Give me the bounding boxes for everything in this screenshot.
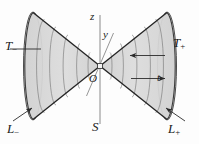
label-t-plus: T+ <box>173 36 185 51</box>
future-cone-body <box>100 13 175 120</box>
label-l-plus-subscript: + <box>175 127 180 137</box>
past-cone <box>24 12 101 120</box>
axis-label-y: y <box>103 29 108 40</box>
origin-marker <box>98 64 103 69</box>
axis-label-t: t <box>157 72 160 83</box>
label-t-minus: T− <box>5 39 17 54</box>
future-cone <box>100 12 177 120</box>
axis-label-z: z <box>90 11 94 22</box>
past-cone-body <box>25 13 100 120</box>
label-l-minus-subscript: − <box>14 127 19 137</box>
label-s: S <box>92 120 99 133</box>
origin-label: O <box>89 73 97 84</box>
label-l-minus: L− <box>7 122 19 137</box>
label-t-minus-subscript: − <box>12 44 17 54</box>
label-l-plus: L+ <box>168 122 180 137</box>
label-t-plus-subscript: + <box>180 41 185 51</box>
lightcone-figure: T− T+ L− L+ S z y t O <box>0 0 199 144</box>
